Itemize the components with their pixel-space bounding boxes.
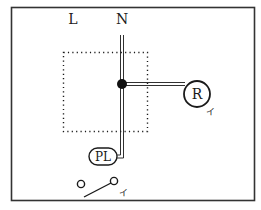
line-label: L (68, 11, 77, 27)
diagram-frame (12, 8, 255, 201)
wiring-diagram: L N R イ PL イ (0, 0, 261, 210)
switch-symbol (77, 177, 117, 197)
receptacle-mark: イ (206, 107, 215, 117)
neutral-wire (121, 35, 124, 158)
receptacle-wire (122, 83, 185, 86)
pilot-lamp-wire (117, 155, 124, 158)
junction-dot (117, 79, 127, 89)
junction-box-outline (64, 53, 148, 132)
receptacle-label: R (192, 86, 203, 102)
pilot-lamp-label: PL (95, 150, 111, 164)
switch-mark: イ (119, 188, 128, 198)
neutral-label: N (116, 11, 128, 27)
